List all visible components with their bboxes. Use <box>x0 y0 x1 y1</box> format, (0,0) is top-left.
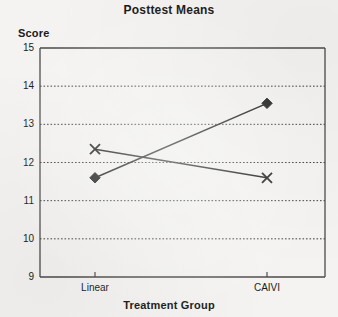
x-axis-ticks <box>95 272 267 277</box>
marker-diamond <box>262 98 272 108</box>
series-line-cross-series <box>95 149 267 178</box>
chart-screenshot: Posttest Means Score 1514131211109 Linea… <box>0 0 338 317</box>
series-line-diamond-series <box>95 103 267 177</box>
marker-diamond <box>90 173 100 183</box>
plot-area <box>0 0 338 317</box>
gridlines <box>40 86 325 239</box>
data-series <box>90 98 272 183</box>
